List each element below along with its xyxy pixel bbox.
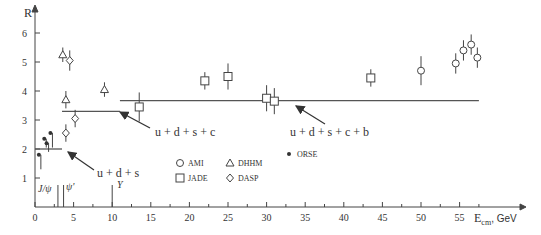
legend-label-dasp: DASP (238, 174, 259, 183)
legend-label-dhhm: DHHM (238, 159, 262, 168)
triangle-marker-icon (62, 96, 70, 103)
series-orse (37, 131, 53, 169)
dot-marker-icon (42, 137, 46, 141)
level-arrow-icon (296, 106, 325, 124)
dot-marker-icon (287, 152, 291, 156)
circle-marker-icon (452, 60, 459, 67)
x-tick-label: 45 (377, 212, 387, 223)
x-tick-label: 20 (184, 212, 194, 223)
y-axis-label: R (24, 6, 32, 20)
dot-marker-icon (37, 153, 41, 157)
resonance-label: Υ (117, 179, 124, 190)
level-label-2: u + d + s + c (155, 125, 215, 139)
square-marker-icon (270, 97, 278, 105)
square-marker-icon (135, 103, 143, 111)
triangle-marker-icon (226, 159, 234, 166)
series-dhhm (59, 48, 109, 109)
x-tick-label: 50 (416, 212, 426, 223)
series-dasp (62, 50, 78, 141)
y-axis-arrow-icon (32, 5, 38, 12)
x-tick-label: 30 (262, 212, 272, 223)
x-tick-label: 25 (223, 212, 233, 223)
x-tick-label: 5 (71, 212, 76, 223)
x-tick-label: 40 (339, 212, 349, 223)
diamond-marker-icon (227, 174, 234, 182)
legend-label-jade: JADE (188, 174, 208, 183)
square-marker-icon (263, 94, 271, 102)
dot-marker-icon (45, 141, 49, 145)
resonance-label: ψ' (66, 181, 75, 192)
x-axis-arrow-icon (520, 204, 526, 210)
square-marker-icon (224, 73, 232, 81)
r-ratio-chart: 0510152025303540455055123456 u + d + su … (0, 0, 541, 235)
square-marker-icon (201, 77, 209, 85)
y-tick-label: 4 (22, 86, 27, 97)
diamond-marker-icon (62, 129, 69, 137)
triangle-marker-icon (100, 86, 108, 93)
square-marker-icon (176, 174, 184, 182)
x-tick-label: 10 (107, 212, 117, 223)
triangle-marker-icon (59, 51, 67, 58)
circle-marker-icon (177, 160, 184, 167)
quark-levels: u + d + su + d + s + cu + d + s + c + b (35, 101, 479, 180)
resonance-label: J/ψ (38, 183, 52, 194)
circle-marker-icon (468, 41, 475, 48)
data-points (37, 34, 481, 169)
level-label-3: u + d + s + c + b (290, 125, 369, 139)
x-tick-label: 15 (146, 212, 156, 223)
dot-marker-icon (48, 131, 52, 135)
y-tick-label: 5 (22, 57, 27, 68)
series-jade (135, 63, 375, 121)
level-arrow-icon (68, 152, 94, 170)
y-tick-label: 3 (22, 115, 27, 126)
square-marker-icon (367, 74, 375, 82)
level-arrow-icon (120, 112, 150, 128)
resonance-lines: J/ψψ'Υ (38, 179, 124, 207)
x-tick-label: 55 (455, 212, 465, 223)
y-tick-label: 6 (22, 28, 27, 39)
circle-marker-icon (460, 47, 467, 54)
diamond-marker-icon (72, 115, 79, 123)
circle-marker-icon (418, 67, 425, 74)
series-ami (418, 34, 481, 85)
circle-marker-icon (474, 54, 481, 61)
x-tick-label: 35 (300, 212, 310, 223)
level-label-1: u + d + s (97, 166, 140, 180)
y-tick-label: 1 (22, 173, 27, 184)
legend-label-orse: ORSE (297, 150, 318, 159)
legend: AMIDHHMJADEDASPORSE (176, 150, 318, 183)
axis-ticks: 0510152025303540455055123456 (22, 28, 479, 223)
y-tick-label: 2 (22, 144, 27, 155)
x-axis-label: Ecm, GeV (474, 211, 517, 227)
x-tick-label: 0 (33, 212, 38, 223)
legend-label-ami: AMI (188, 159, 204, 168)
